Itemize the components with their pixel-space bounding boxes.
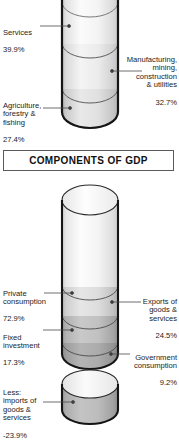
label-agriculture-name: Agriculture, forestry & fishing <box>3 102 41 128</box>
label-government-consumption-name: Government consumption <box>111 354 177 371</box>
label-private-consumption-value: 72.9% <box>3 315 46 324</box>
label-manufacturing-value: 32.7% <box>101 99 177 108</box>
label-fixed-investment-value: 17.3% <box>3 359 40 368</box>
label-fixed-investment-name: Fixed investment <box>3 334 40 351</box>
label-agriculture: Agriculture, forestry & fishing 27.4% <box>3 93 41 153</box>
label-imports: Less: imports of goods & services -23.9% <box>3 380 36 442</box>
negative-cylinder-top-cap <box>62 370 118 398</box>
chart-title-box: COMPONENTS OF GDP <box>3 150 174 171</box>
label-exports-value: 24.5% <box>115 332 177 341</box>
label-manufacturing: Manufacturing, mining, construction & ut… <box>101 47 177 116</box>
label-services-name: Services <box>3 29 32 38</box>
label-manufacturing-name: Manufacturing, mining, construction & ut… <box>101 56 177 90</box>
label-services: Services 39.9% <box>3 20 32 63</box>
bottom-cylinder-top-cap <box>62 185 118 215</box>
page-title: COMPONENTS OF GDP <box>29 155 148 166</box>
label-imports-value: -23.9% <box>3 432 36 441</box>
label-government-consumption: Government consumption 9.2% <box>111 345 177 397</box>
label-exports-name: Exports of goods & services <box>115 298 177 324</box>
segment-services <box>60 0 120 44</box>
label-agriculture-value: 27.4% <box>3 136 41 145</box>
label-private-consumption-name: Private consumption <box>3 290 46 307</box>
label-imports-name: Less: imports of goods & services <box>3 389 36 423</box>
label-government-consumption-value: 9.2% <box>111 379 177 388</box>
label-services-value: 39.9% <box>3 46 32 55</box>
label-exports: Exports of goods & services 24.5% <box>115 289 177 349</box>
label-fixed-investment: Fixed investment 17.3% <box>3 325 40 377</box>
